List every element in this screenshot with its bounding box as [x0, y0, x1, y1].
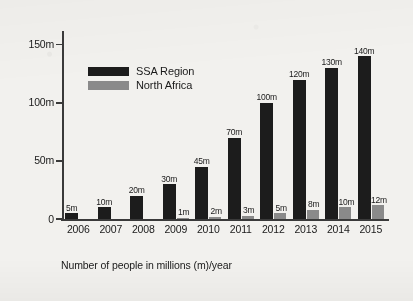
- bar-value-label: 3m: [243, 206, 254, 215]
- bar-value-label: 30m: [161, 175, 177, 184]
- x-axis-labels: 2006200720082009201020112012201320142015: [62, 223, 387, 239]
- bar-value-label: 1m: [178, 208, 189, 217]
- bar-ssa-region: 130m: [325, 68, 338, 219]
- legend-label-north-africa: North Africa: [136, 80, 192, 91]
- bar-value-label: 120m: [289, 70, 309, 79]
- bar-group: 20m: [127, 33, 160, 219]
- legend-item-ssa-region: SSA Region: [88, 66, 194, 77]
- x-axis-tick-label: 2014: [322, 223, 355, 236]
- bar-value-label: 45m: [194, 157, 210, 166]
- bar-ssa-region: 5m: [65, 213, 78, 219]
- bar-ssa-region: 70m: [228, 138, 241, 219]
- legend-label-ssa-region: SSA Region: [136, 66, 194, 77]
- x-axis-tick-label: 2012: [257, 223, 290, 236]
- legend-swatch-north-africa: [88, 81, 129, 90]
- x-axis-tick-label: 2015: [355, 223, 388, 236]
- bar-group: 70m3m: [225, 33, 258, 219]
- x-axis-tick-label: 2009: [160, 223, 193, 236]
- bar-ssa-region: 45m: [195, 167, 208, 219]
- bar-value-label: 20m: [129, 186, 145, 195]
- legend-swatch-ssa-region: [88, 67, 129, 76]
- bar-ssa-region: 10m: [98, 207, 111, 219]
- bar-value-label: 8m: [308, 200, 319, 209]
- bar-value-label: 5m: [66, 204, 77, 213]
- bar-value-label: 100m: [257, 93, 277, 102]
- legend-item-north-africa: North Africa: [88, 80, 194, 91]
- x-axis-tick-label: 2006: [62, 223, 95, 236]
- bar-group: 10m: [95, 33, 128, 219]
- x-axis-tick-label: 2010: [192, 223, 225, 236]
- bar-north-africa: 2m: [209, 217, 221, 219]
- bar-north-africa: 12m: [372, 205, 384, 219]
- bar-value-label: 2m: [210, 207, 221, 216]
- bar-group: 120m8m: [290, 33, 323, 219]
- x-axis-tick-label: 2011: [225, 223, 258, 236]
- bar-value-label: 130m: [322, 58, 342, 67]
- bar-north-africa: 10m: [339, 207, 351, 219]
- bar-ssa-region: 100m: [260, 103, 273, 219]
- bar-group: 45m2m: [192, 33, 225, 219]
- bar-ssa-region: 30m: [163, 184, 176, 219]
- bar-value-label: 140m: [354, 47, 374, 56]
- bar-ssa-region: 140m: [358, 56, 371, 219]
- bar-value-label: 70m: [226, 128, 242, 137]
- bar-north-africa: 5m: [274, 213, 286, 219]
- bar-north-africa: 1m: [177, 218, 189, 220]
- bar-value-label: 10m: [96, 198, 112, 207]
- bar-group: 30m1m: [160, 33, 193, 219]
- x-axis-tick-label: 2007: [95, 223, 128, 236]
- bar-group: 5m: [62, 33, 95, 219]
- bar-north-africa: 8m: [307, 210, 319, 219]
- chart-legend: SSA Region North Africa: [88, 66, 194, 91]
- bars-layer: 5m10m20m30m1m45m2m70m3m100m5m120m8m130m1…: [0, 0, 413, 301]
- bar-value-label: 10m: [339, 198, 355, 207]
- x-axis-tick-label: 2008: [127, 223, 160, 236]
- bar-value-label: 5m: [275, 204, 286, 213]
- bar-ssa-region: 20m: [130, 196, 143, 219]
- bar-group: 130m10m: [322, 33, 355, 219]
- chart-caption: Number of people in millions (m)/year: [61, 259, 232, 271]
- x-axis-tick-label: 2013: [290, 223, 323, 236]
- bar-ssa-region: 120m: [293, 80, 306, 220]
- bar-chart-figure: 050m100m150m 5m10m20m30m1m45m2m70m3m100m…: [0, 0, 413, 301]
- bar-value-label: 12m: [371, 196, 387, 205]
- bar-group: 140m12m: [355, 33, 388, 219]
- bar-north-africa: 3m: [242, 216, 254, 219]
- bar-group: 100m5m: [257, 33, 290, 219]
